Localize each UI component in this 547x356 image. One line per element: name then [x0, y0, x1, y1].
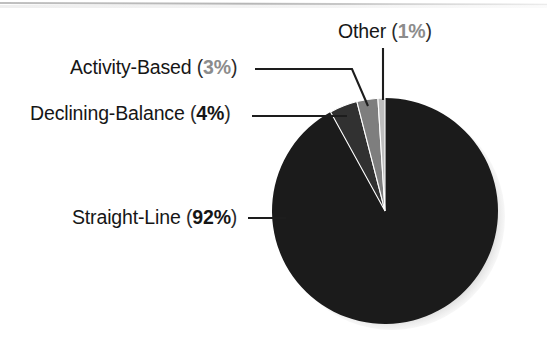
slice-label-declining-balance-paren-close: ): [224, 102, 230, 124]
leader-line-activity-based: [255, 69, 368, 106]
slice-label-straight-line: Straight-Line (92%): [72, 208, 237, 228]
slice-label-activity-based-name: Activity-Based: [70, 56, 191, 78]
slice-label-other-percent: 1%: [398, 20, 426, 42]
slice-label-other: Other (1%): [338, 22, 432, 42]
slice-label-other-paren-close: ): [426, 20, 432, 42]
pie-chart-figure: Other (1%) Activity-Based (3%) Declining…: [0, 0, 547, 356]
slice-label-declining-balance-name: Declining-Balance: [30, 102, 185, 124]
slice-label-activity-based-percent: 3%: [203, 56, 231, 78]
slice-label-other-name: Other: [338, 20, 386, 42]
slice-label-declining-balance-percent: 4%: [196, 102, 224, 124]
slice-label-declining-balance: Declining-Balance (4%): [30, 104, 230, 124]
slice-label-straight-line-paren-close: ): [231, 206, 237, 228]
slice-label-straight-line-percent: 92%: [192, 206, 231, 228]
pie-svg: [0, 0, 547, 356]
slice-label-activity-based: Activity-Based (3%): [70, 58, 237, 78]
slice-label-straight-line-name: Straight-Line: [72, 206, 181, 228]
slice-label-activity-based-paren-close: ): [231, 56, 237, 78]
